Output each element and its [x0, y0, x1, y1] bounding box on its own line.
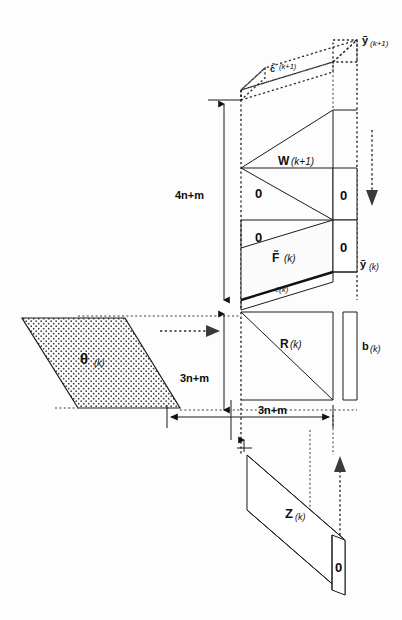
label-z: Z: [285, 506, 293, 521]
c-tilde-next-block: [241, 40, 357, 100]
label-f-tilde-index: (k): [284, 253, 296, 264]
label-c-tilde: c̃(k): [275, 285, 289, 294]
label-y-tilde-next: ỹ: [362, 34, 369, 46]
label-w-next: W: [278, 154, 290, 168]
dimension-vertical-upper: [208, 100, 241, 300]
label-y-tilde-next-index: (k+1): [370, 39, 389, 48]
label-theta-index: (k): [94, 358, 105, 368]
label-r-index: (k): [290, 339, 302, 350]
label-f-tilde: F̃: [272, 250, 279, 265]
label-r: R: [280, 337, 289, 351]
label-dim-horizontal: 3n+m: [258, 404, 287, 416]
dimension-horizontal: [167, 405, 333, 428]
figure-root: c̃ (k+1) ỹ (k+1) W (k+1) 0 0: [0, 0, 402, 620]
label-c-tilde-next: c̃: [270, 63, 276, 74]
label-dim-vertical-upper: 4n+m: [175, 189, 204, 201]
label-dim-vertical-lower: 3n+m: [180, 372, 209, 384]
b-block: [343, 312, 357, 400]
z-block: [247, 455, 345, 595]
label-y-tilde-index: (k): [369, 262, 379, 272]
block-structure-diagram: c̃ (k+1) ỹ (k+1) W (k+1) 0 0: [0, 0, 402, 620]
r-block: [241, 312, 333, 400]
label-z-index: (k): [295, 512, 306, 522]
label-zero-middle-right: 0: [340, 240, 347, 255]
dotted-arrow-up-lower: [334, 456, 346, 540]
label-zero-upper-left: 0: [255, 186, 262, 201]
label-zero-upper-right: 0: [340, 188, 347, 203]
label-b-index: (k): [370, 344, 381, 354]
label-theta: θ: [80, 350, 88, 367]
label-b: b: [362, 340, 369, 352]
dotted-arrow-down-upper: [366, 130, 378, 206]
label-y-tilde: ỹ: [360, 258, 367, 270]
dotted-arrow-right: [160, 325, 220, 337]
label-w-next-index: (k+1): [291, 156, 314, 167]
z-corner-tick: [237, 440, 252, 452]
label-zero-bottom-right: 0: [335, 560, 342, 575]
label-c-tilde-next-index: (k+1): [279, 62, 297, 71]
label-zero-middle-left: 0: [255, 230, 262, 245]
